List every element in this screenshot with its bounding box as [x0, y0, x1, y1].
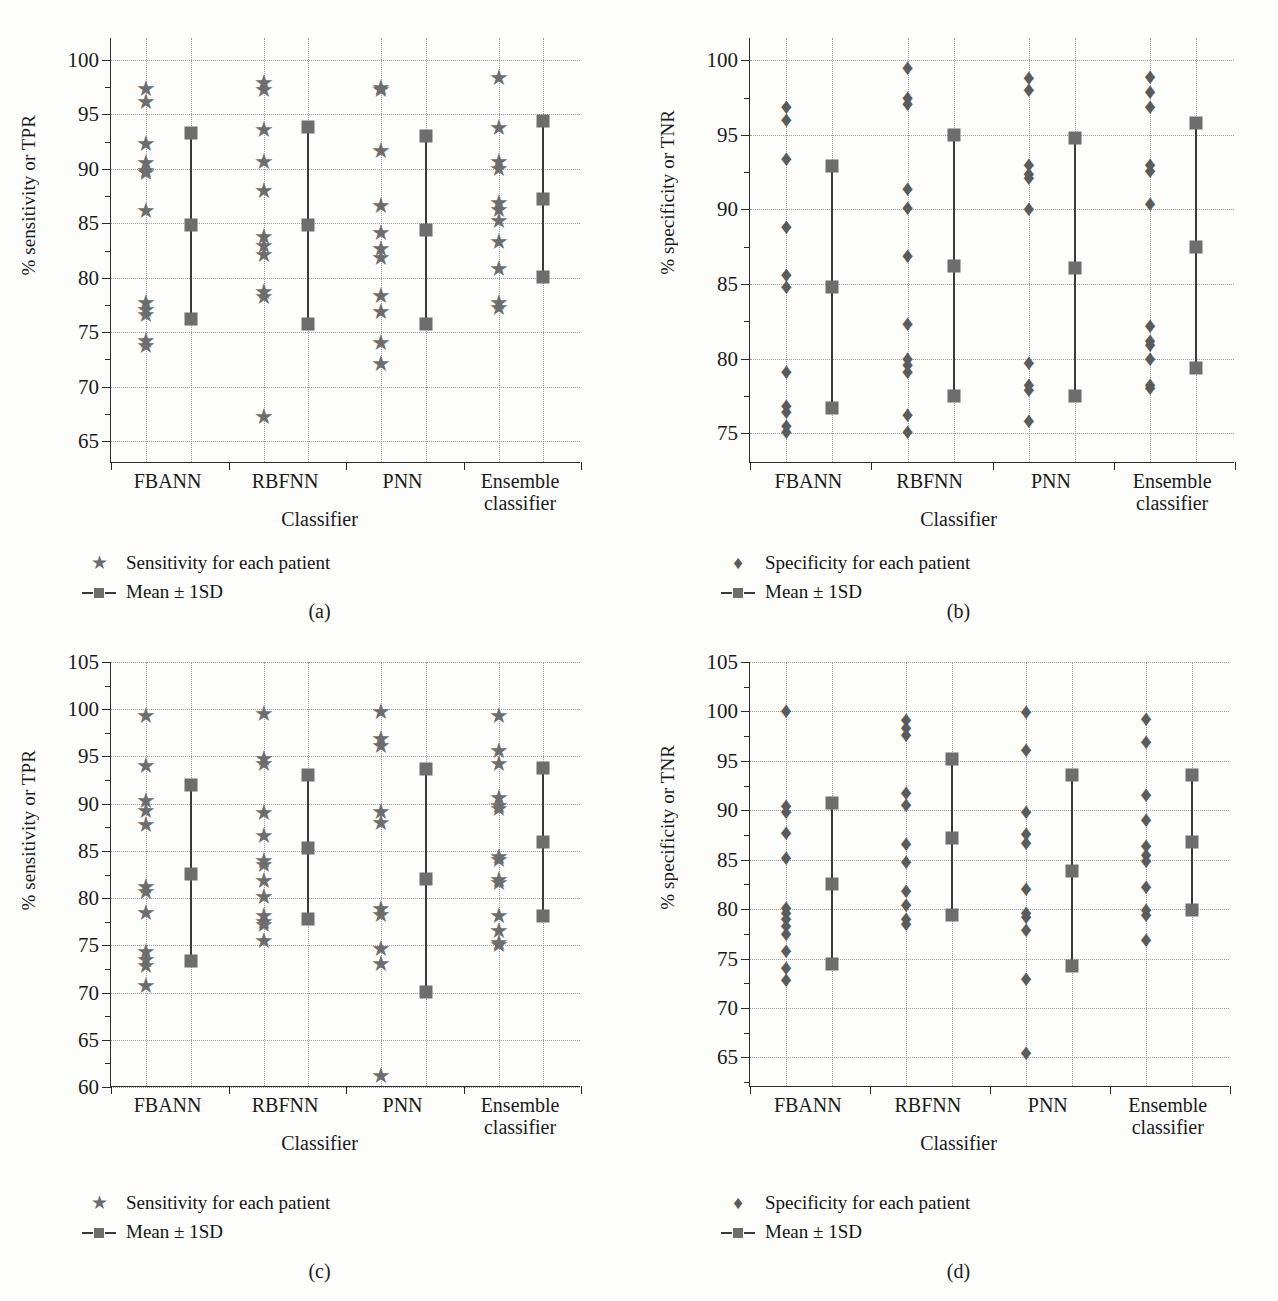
x-axis-tick: [111, 462, 112, 470]
legend-item: Mean ± 1SD: [711, 1217, 970, 1246]
y-axis-tick-label: 100: [68, 697, 100, 722]
gridline-horizontal: [111, 278, 580, 279]
legend-item: ♦Specificity for each patient: [711, 1188, 970, 1217]
x-axis-tick: [581, 1086, 582, 1094]
sd-marker: [184, 313, 197, 326]
gridline-horizontal: [111, 898, 580, 899]
y-axis-tick: [102, 441, 111, 442]
sd-marker: [537, 910, 550, 923]
mean-marker: [419, 873, 432, 886]
mean-marker: [945, 831, 958, 844]
y-axis-tick-label: 75: [717, 946, 738, 971]
sd-marker: [825, 797, 838, 810]
sd-marker: [419, 985, 432, 998]
y-axis-tick: [102, 387, 111, 388]
x-axis-title: Classifier: [639, 508, 1278, 531]
x-axis-tick: [346, 1086, 347, 1094]
legend-item: ♦Specificity for each patient: [711, 548, 970, 577]
x-axis-tick: [993, 462, 994, 470]
sd-marker: [945, 752, 958, 765]
panel-a: % sensitivity or TPR65707580859095100★★★…: [0, 0, 639, 640]
y-axis-tick-label: 95: [717, 122, 738, 147]
sd-marker: [537, 270, 550, 283]
y-axis-tick: [741, 662, 750, 663]
y-axis-tick: [102, 662, 111, 663]
sd-marker: [537, 761, 550, 774]
y-axis-tick-label: 90: [717, 197, 738, 222]
y-axis-title: % sensitivity or TPR: [18, 115, 40, 276]
gridline-horizontal: [111, 662, 580, 663]
mean-marker: [1068, 261, 1081, 274]
x-axis-category-label: FBANN: [134, 470, 202, 492]
panel-d: % specificity or TNR65707580859095100105…: [639, 640, 1278, 1301]
gridline-horizontal: [750, 135, 1234, 136]
y-axis-tick: [102, 278, 111, 279]
x-axis-category-label: RBFNN: [894, 1094, 961, 1116]
x-axis-tick: [111, 1086, 112, 1094]
x-axis-tick: [750, 1086, 751, 1094]
y-axis-tick: [102, 851, 111, 852]
y-axis-tick: [741, 909, 750, 910]
x-axis-tick: [1110, 1086, 1111, 1094]
sd-marker: [825, 958, 838, 971]
gridline-vertical: [786, 662, 787, 1086]
y-axis-tick-label: 80: [78, 265, 99, 290]
y-axis-tick-label: 75: [717, 421, 738, 446]
y-axis-tick-label: 105: [707, 650, 739, 675]
panel-caption: (c): [0, 1260, 639, 1283]
sd-marker: [1068, 389, 1081, 402]
gridline-horizontal: [750, 959, 1229, 960]
y-axis-tick: [741, 1057, 750, 1058]
y-axis-tick: [105, 414, 111, 415]
y-axis-tick: [102, 709, 111, 710]
y-axis-tick: [741, 761, 750, 762]
x-axis-tick: [1114, 462, 1115, 470]
gridline-horizontal: [111, 387, 580, 388]
y-axis-tick: [105, 251, 111, 252]
y-axis-tick: [105, 196, 111, 197]
sd-marker: [302, 317, 315, 330]
y-axis-tick: [744, 172, 750, 173]
y-axis-tick: [741, 135, 750, 136]
gridline-horizontal: [750, 284, 1234, 285]
y-axis-tick: [744, 786, 750, 787]
x-axis-tick: [229, 462, 230, 470]
y-axis-tick: [741, 810, 750, 811]
x-axis-tick: [346, 462, 347, 470]
plot-area: 65707580859095100★★★★★★★★★★★★★★★★★★★★★★★…: [110, 38, 580, 463]
y-axis-tick: [105, 1016, 111, 1017]
y-axis-tick: [105, 922, 111, 923]
x-axis-tick: [990, 1086, 991, 1094]
y-axis-tick-label: 85: [78, 838, 99, 863]
y-axis-tick-label: 75: [78, 320, 99, 345]
legend: ♦Specificity for each patientMean ± 1SD: [711, 548, 970, 606]
legend-label: Mean ± 1SD: [126, 1221, 223, 1243]
y-axis-tick: [102, 114, 111, 115]
y-axis-tick-label: 75: [78, 933, 99, 958]
y-axis-tick: [105, 1063, 111, 1064]
x-axis-category-label: PNN: [383, 470, 423, 492]
y-axis-tick-label: 100: [707, 699, 739, 724]
mean-marker: [419, 223, 432, 236]
y-axis-tick-label: 90: [78, 791, 99, 816]
x-axis-tick: [229, 1086, 230, 1094]
y-axis-tick: [744, 321, 750, 322]
x-axis-tick: [1235, 462, 1236, 470]
gridline-horizontal: [750, 662, 1229, 663]
panel-caption: (d): [639, 1260, 1278, 1283]
sd-marker: [302, 121, 315, 134]
x-axis-category-label: FBANN: [775, 470, 843, 492]
gridline-horizontal: [750, 860, 1229, 861]
y-axis-tick: [741, 711, 750, 712]
y-axis-tick: [744, 1033, 750, 1034]
y-axis-tick-label: 90: [717, 798, 738, 823]
y-axis-tick: [741, 860, 750, 861]
y-axis-tick-label: 100: [68, 47, 100, 72]
x-axis-tick: [1230, 1086, 1231, 1094]
x-axis-tick: [464, 1086, 465, 1094]
sd-marker: [419, 762, 432, 775]
legend-diamond-icon: ♦: [711, 551, 765, 574]
y-axis-title: % specificity or TNR: [657, 745, 679, 910]
y-axis-tick: [102, 1087, 111, 1088]
y-axis-tick: [102, 1040, 111, 1041]
